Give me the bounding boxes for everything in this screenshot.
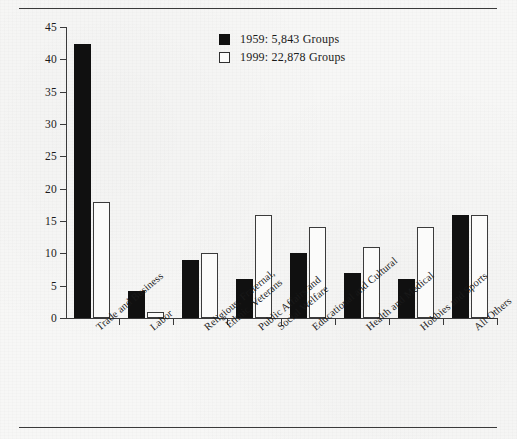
- bar-1999: [93, 202, 110, 318]
- x-separator-tick: [335, 318, 336, 325]
- legend-swatch-1959: [219, 34, 230, 45]
- y-tick-mark: [60, 253, 66, 254]
- y-tick-mark: [60, 124, 66, 125]
- legend-label: 1959: 5,843 Groups: [240, 32, 339, 47]
- bar-1999: [471, 215, 488, 318]
- y-tick-mark: [60, 27, 66, 28]
- x-separator-tick: [173, 318, 174, 325]
- y-tick-mark: [60, 286, 66, 287]
- y-tick-label: 30: [45, 118, 57, 130]
- y-tick-label: 10: [45, 247, 57, 259]
- y-tick-mark: [60, 92, 66, 93]
- legend-label: 1999: 22,878 Groups: [240, 50, 345, 65]
- y-tick-label: 45: [45, 21, 57, 33]
- bar-1959: [182, 260, 199, 318]
- plot-area: 051015202530354045 Trade and BusinessLab…: [66, 27, 497, 318]
- x-separator-tick: [443, 318, 444, 325]
- bar-group: [74, 27, 112, 318]
- y-tick-mark: [60, 156, 66, 157]
- bar-1999: [201, 253, 218, 318]
- top-horizontal-rule: [19, 8, 497, 9]
- x-separator-tick: [389, 318, 390, 325]
- y-tick-label: 25: [45, 150, 57, 162]
- legend-swatch-1999: [219, 52, 230, 63]
- y-tick-mark: [60, 59, 66, 60]
- y-tick-label: 35: [45, 86, 57, 98]
- bar-group: [290, 27, 328, 318]
- chart-legend: 1959: 5,843 Groups1999: 22,878 Groups: [219, 30, 345, 66]
- legend-item: 1959: 5,843 Groups: [219, 30, 345, 48]
- bar-1959: [74, 44, 91, 318]
- y-tick-mark: [60, 318, 66, 319]
- legend-item: 1999: 22,878 Groups: [219, 48, 345, 66]
- y-tick-label: 40: [45, 53, 57, 65]
- y-axis-line: [66, 27, 67, 318]
- y-tick-label: 20: [45, 183, 57, 195]
- y-tick-mark: [60, 221, 66, 222]
- bottom-horizontal-rule: [19, 427, 497, 428]
- y-tick-label: 15: [45, 215, 57, 227]
- x-separator-tick: [119, 318, 120, 325]
- y-tick-label: 0: [51, 312, 57, 324]
- y-tick-label: 5: [51, 280, 57, 292]
- bar-group: [182, 27, 220, 318]
- x-separator-tick: [497, 318, 498, 325]
- y-tick-mark: [60, 189, 66, 190]
